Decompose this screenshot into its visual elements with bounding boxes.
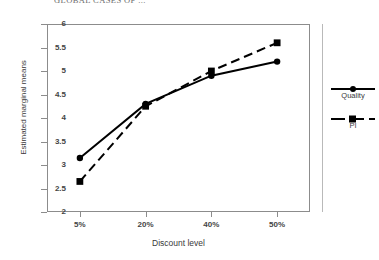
x-axis-tick-label: 40%	[189, 220, 233, 229]
x-axis-tick	[146, 212, 147, 217]
y-axis-tick-label: 6	[40, 20, 66, 28]
chart-title: GLOBAL CASES OF ...	[54, 0, 264, 3]
solid-line-sample	[329, 80, 377, 90]
y-axis-tick-label: 4	[40, 114, 66, 122]
x-axis-tick-label: 20%	[124, 220, 168, 229]
chart-figure: GLOBAL CASES OF ... 65.554.543.532.52 Es…	[0, 0, 379, 260]
dashed-line-sample	[329, 110, 377, 120]
legend-item-quality[interactable]: Quality	[327, 80, 379, 101]
y-axis-tick-label: 3	[40, 161, 66, 169]
x-axis-tick	[211, 212, 212, 217]
y-axis-tick-label: 5	[40, 67, 66, 75]
y-axis-tick-label: 2	[40, 208, 66, 216]
y-axis-tick-label: 5.5	[40, 44, 66, 52]
legend-item-pi[interactable]: PI	[327, 110, 379, 131]
y-axis-tick-label: 2.5	[40, 185, 66, 193]
x-axis-tick	[277, 212, 278, 217]
legend: Quality PI	[322, 24, 379, 212]
y-axis-tick-label: 4.5	[40, 91, 66, 99]
y-axis-title: Estimated marginal means	[19, 33, 28, 183]
x-axis-tick-label: 5%	[58, 220, 102, 229]
y-axis-tick-label: 3.5	[40, 138, 66, 146]
x-axis-tick	[80, 212, 81, 217]
plot-area	[47, 24, 310, 212]
x-axis-tick-label: 50%	[255, 220, 299, 229]
x-axis-title: Discount level	[47, 238, 310, 248]
